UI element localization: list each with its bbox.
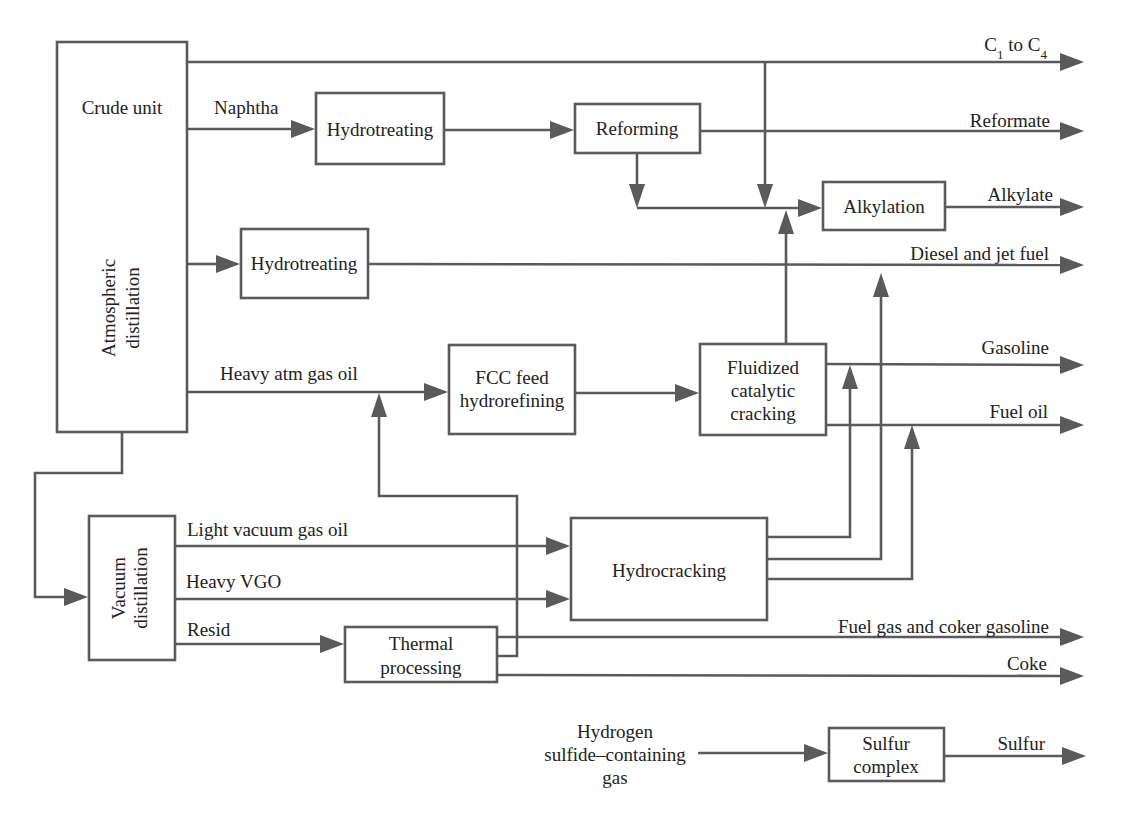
thermal-label: Thermal [389, 633, 453, 654]
cracking-label: cracking [730, 403, 796, 424]
thermal-processing-box: Thermal processing [345, 627, 497, 682]
hydrotreating-diesel-box: Hydrotreating [241, 229, 368, 298]
atmospheric-label: Atmospheric [98, 259, 119, 357]
gasoline-line [826, 364, 1060, 365]
reformate-arrow-icon [1060, 122, 1084, 140]
resid-label: Resid [187, 619, 231, 640]
arrow-right-icon [550, 121, 574, 139]
hydrocracking-box: Hydrocracking [571, 518, 767, 620]
naphtha-arrow-icon [291, 120, 315, 138]
fuel-gas-coker-label: Fuel gas and coker gasoline [838, 616, 1049, 637]
hydrotreating-naphtha-box: Hydrotreating [316, 93, 444, 164]
vacuum-label: Vacuum [108, 557, 129, 619]
arrow-right-icon [804, 744, 828, 762]
arrow-down-icon [757, 184, 773, 208]
alkylation-box: Alkylation [823, 182, 945, 230]
product-labels: C1 to C4 Reformate Alkylate Diesel and j… [838, 34, 1053, 754]
sulfur-complex-box: Sulfur complex [829, 728, 944, 781]
coke-arrow-icon [1060, 667, 1084, 685]
reforming-box: Reforming [575, 104, 700, 153]
sulfur-label: Sulfur [862, 733, 910, 754]
reforming-label: Reforming [596, 118, 679, 139]
c1-c4-arrow-icon [1060, 53, 1084, 71]
hydrotreating-diesel-label: Hydrotreating [251, 253, 358, 274]
arrow-right-icon [675, 384, 699, 402]
arrow-up-icon [842, 365, 858, 389]
distillation-label: distillation [122, 267, 143, 349]
naphtha-label: Naphtha [214, 97, 279, 118]
fuel-gas-coker-arrow-icon [1060, 628, 1084, 646]
diesel-jet-arrow-icon [1060, 256, 1084, 274]
arrow-right-icon [64, 588, 88, 606]
c1-c4-label: C1 to C4 [984, 34, 1047, 62]
hydrocracking-label: Hydrocracking [612, 560, 726, 581]
coke-line [497, 675, 1060, 676]
h2s-line1-label: Hydrogen [577, 721, 653, 742]
arrow-up-icon [873, 273, 889, 297]
hydrorefining-label: hydrorefining [460, 390, 565, 411]
arrow-right-icon [424, 383, 448, 401]
arrow-right-icon [546, 590, 570, 608]
fcc-feed-hydrorefining-box: FCC feed hydrorefining [449, 345, 575, 434]
fuel-oil-arrow-icon [1060, 416, 1084, 434]
light-vgo-label: Light vacuum gas oil [187, 519, 348, 540]
gasoline-label: Gasoline [981, 337, 1049, 358]
heavy-atm-gas-oil-label: Heavy atm gas oil [220, 363, 358, 384]
alkylate-arrow-icon [1060, 198, 1084, 216]
arrow-up-icon [904, 425, 920, 449]
diesel-jet-line [368, 264, 1060, 265]
coke-label: Coke [1007, 653, 1047, 674]
stream-labels: Naphtha Heavy atm gas oil Light vacuum g… [186, 97, 686, 788]
fluidized-label: Fluidized [727, 357, 799, 378]
hydrotreating-naphtha-label: Hydrotreating [327, 119, 434, 140]
h2s-line3-label: gas [602, 767, 627, 788]
arrow-right-icon [546, 537, 570, 555]
catalytic-label: catalytic [731, 380, 795, 401]
refinery-flow-diagram: marker path { fill:#5a5a5a; } [0, 0, 1121, 819]
arrow-right-icon [216, 255, 240, 273]
thermal-to-fcc-feed-line [379, 413, 517, 656]
reformate-label: Reformate [970, 110, 1050, 131]
fcc-box: Fluidized catalytic cracking [700, 344, 826, 435]
h2s-line2-label: sulfide–containing [544, 744, 686, 765]
processing-label: processing [380, 657, 462, 678]
arrow-right-icon [320, 635, 344, 653]
arrow-up-icon [371, 393, 387, 417]
gasoline-arrow-icon [1060, 356, 1084, 374]
arrow-down-icon [629, 184, 645, 208]
arrow-up-icon [778, 210, 794, 234]
complex-label: complex [853, 756, 919, 777]
alkylation-label: Alkylation [843, 196, 925, 217]
vacuum-distillation-box: Vacuum distillation [89, 516, 175, 660]
sulfur-arrow-icon [1062, 747, 1086, 765]
alkylate-label: Alkylate [988, 184, 1053, 205]
vacuum-distillation-label: distillation [130, 547, 151, 629]
alkylation-feed-arrow-icon [798, 199, 822, 217]
sulfur-product-label: Sulfur [998, 733, 1046, 754]
fuel-oil-label: Fuel oil [989, 401, 1048, 422]
diesel-jet-label: Diesel and jet fuel [910, 243, 1049, 264]
crude-unit-box: Crude unit Atmospheric distillation [57, 42, 187, 432]
crude-unit-label: Crude unit [82, 97, 163, 118]
heavy-vgo-label: Heavy VGO [186, 571, 281, 592]
fcc-feed-label: FCC feed [475, 367, 549, 388]
